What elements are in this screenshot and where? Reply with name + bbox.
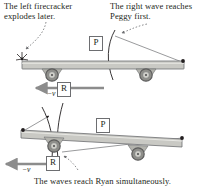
peggy-label-bottom: P: [96, 118, 110, 133]
wave-ray-right-top: [115, 36, 182, 62]
right-firecracker-point-top: [181, 59, 185, 63]
top-panel: [16, 22, 185, 88]
wheel-axle-right-top: [145, 74, 147, 76]
leader-line-right-wave: [122, 24, 147, 33]
caption-left-firecracker: The left firecracker explodes later.: [4, 1, 100, 21]
wheel-assembly-right-top: [136, 69, 156, 81]
train-car-top: [22, 61, 184, 69]
left-firecracker-point-bottom: [21, 128, 25, 132]
wave-front-right-bottom: [57, 103, 63, 160]
wheel-axle-left-bottom: [53, 145, 55, 147]
wave-ray-left-bottom: [25, 116, 49, 130]
car-body-top: [22, 61, 184, 69]
velocity-label-bottom: −v: [22, 165, 31, 174]
left-firecracker-burst-top: [16, 52, 28, 60]
leader-line-bottom-caption: [64, 156, 78, 170]
leader-line-left-firecracker: [26, 22, 46, 49]
wheel-axle-right-bottom: [137, 153, 139, 155]
caption-waves-reach-ryan: The waves reach Ryan simultaneously.: [0, 176, 205, 186]
velocity-label-top: −v: [47, 89, 56, 98]
wheel-assembly-left-top: [42, 69, 62, 81]
wave-front-right-top: [108, 30, 115, 80]
wheel-assembly-right-bottom: [128, 145, 148, 160]
wheel-assembly-left-bottom: [44, 137, 64, 152]
ryan-label-top: R: [57, 82, 71, 97]
wheel-axle-left-top: [51, 74, 53, 76]
bottom-panel: [6, 103, 184, 170]
caption-right-wave: The right wave reaches Peggy first.: [110, 1, 205, 21]
ryan-label-bottom: R: [46, 156, 60, 171]
relativity-figure: [0, 0, 205, 190]
peggy-label-top: P: [89, 36, 103, 51]
right-firecracker-point-bottom: [180, 136, 184, 140]
